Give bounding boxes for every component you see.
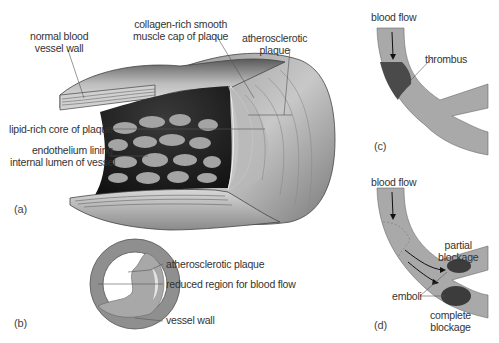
label-lipid-core: lipid-rich core of plaque [9, 123, 113, 135]
label-line: endothelium lining [10, 144, 113, 156]
panel-tag-b: (b) [14, 317, 27, 329]
label-emboli: emboli [392, 290, 422, 302]
label-line: internal lumen of vessel [10, 156, 113, 168]
label-normal-vessel-wall: normal blood vessel wall [30, 30, 88, 54]
label-complete-blockage: complete blockage [430, 309, 471, 333]
label-line: blockage [430, 321, 471, 333]
label-line: partial [438, 239, 478, 251]
label-line: muscle cap of plaque [133, 30, 228, 42]
thrombus-vessel [377, 28, 488, 155]
label-line: collagen-rich smooth [133, 18, 228, 30]
label-line: atherosclerotic [242, 32, 307, 44]
label-blood-flow-c: blood flow [371, 11, 416, 23]
label-atherosclerotic-plaque-b: atherosclerotic plaque [166, 258, 264, 270]
label-line: blockage [438, 251, 478, 263]
label-partial-blockage: partial blockage [438, 239, 478, 263]
label-endothelium: endothelium lining internal lumen of ves… [10, 144, 113, 168]
panel-tag-c: (c) [374, 140, 386, 152]
label-line: vessel wall [30, 42, 88, 54]
label-reduced-region: reduced region for blood flow [166, 278, 296, 290]
panel-tag-a: (a) [14, 203, 27, 215]
label-blood-flow-d: blood flow [371, 176, 416, 188]
label-atherosclerotic-plaque-a: atherosclerotic plaque [242, 32, 307, 56]
vessel-cutaway-illustration [60, 53, 335, 230]
label-line: complete [430, 309, 471, 321]
label-collagen-cap: collagen-rich smooth muscle cap of plaqu… [133, 18, 228, 42]
label-line: normal blood [30, 30, 88, 42]
label-line: plaque [242, 44, 307, 56]
label-thrombus: thrombus [425, 53, 467, 65]
label-vessel-wall: vessel wall [166, 314, 215, 326]
panel-tag-d: (d) [374, 319, 387, 331]
